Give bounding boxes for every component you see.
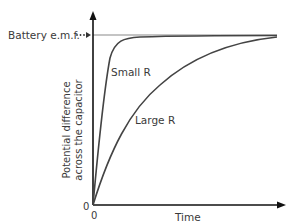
- curve-large-r: [93, 37, 277, 205]
- origin-x-label: 0: [91, 210, 97, 221]
- y-axis-label-line1: Potential difference: [61, 81, 72, 178]
- x-axis-arrow-icon: [277, 202, 286, 209]
- battery-emf-label: Battery e.m.f.: [8, 29, 80, 41]
- curve-label-large-r: Large R: [135, 114, 175, 126]
- curve-label-small-r: Small R: [111, 66, 151, 78]
- origin-y-label: 0: [83, 201, 89, 212]
- x-axis-label: Time: [174, 211, 201, 223]
- y-axis-label-line2: across the capacitor: [73, 78, 84, 180]
- curve-small-r: [93, 36, 277, 206]
- y-axis-arrow-icon: [90, 11, 97, 20]
- capacitor-charging-diagram: Battery e.m.f. Small R Large R 0 0 Time …: [0, 0, 298, 224]
